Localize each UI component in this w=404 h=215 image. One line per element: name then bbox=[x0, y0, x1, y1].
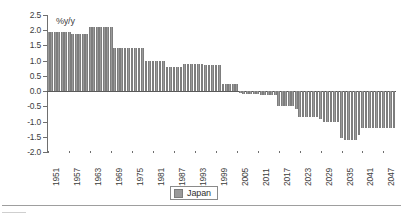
y-tick-mark bbox=[43, 76, 47, 77]
bar bbox=[267, 91, 270, 95]
bar bbox=[375, 91, 378, 128]
x-tick-label: 2041 bbox=[366, 168, 375, 186]
y-tick-mark bbox=[43, 15, 47, 16]
legend-label-japan: Japan bbox=[187, 188, 211, 198]
x-tick-mark bbox=[362, 151, 363, 153]
bar bbox=[305, 91, 308, 117]
bar bbox=[253, 91, 256, 94]
x-tick-label: 1975 bbox=[136, 168, 145, 186]
x-tick-mark bbox=[90, 151, 91, 153]
bar bbox=[354, 91, 357, 140]
bar bbox=[382, 91, 385, 128]
bar bbox=[54, 32, 57, 91]
bar bbox=[124, 48, 127, 91]
bar bbox=[228, 84, 231, 92]
x-tick-label: 1987 bbox=[178, 168, 187, 186]
bar bbox=[242, 91, 245, 93]
bar bbox=[145, 61, 148, 91]
x-tick-mark bbox=[216, 151, 217, 153]
bar bbox=[344, 91, 347, 140]
bar bbox=[68, 32, 71, 91]
bar bbox=[152, 61, 155, 91]
bar bbox=[120, 48, 123, 91]
bar bbox=[173, 67, 176, 91]
bar bbox=[379, 91, 382, 128]
bar bbox=[110, 27, 113, 91]
y-tick-label: 2.0 bbox=[30, 26, 41, 35]
bar bbox=[246, 91, 249, 94]
bar bbox=[113, 48, 116, 91]
bar bbox=[155, 61, 158, 91]
bar bbox=[169, 67, 172, 91]
y-tick-label: 1.0 bbox=[30, 57, 41, 66]
bar bbox=[295, 91, 298, 109]
bar bbox=[61, 32, 64, 91]
bar bbox=[57, 32, 60, 91]
x-tick-mark bbox=[258, 151, 259, 153]
x-tick-label: 2029 bbox=[325, 168, 334, 186]
bar bbox=[127, 48, 130, 91]
bar bbox=[78, 34, 81, 91]
x-axis-tick-labels: 1951195719631969197519811987199319992005… bbox=[0, 153, 404, 188]
bar bbox=[337, 91, 340, 121]
y-tick-mark bbox=[43, 30, 47, 31]
bar bbox=[309, 91, 312, 117]
bar bbox=[99, 27, 102, 91]
bar bbox=[323, 91, 326, 121]
bar bbox=[131, 48, 134, 91]
bar bbox=[263, 91, 266, 95]
x-tick-label: 2011 bbox=[262, 169, 271, 186]
bar bbox=[274, 91, 277, 95]
bar bbox=[256, 91, 259, 94]
bar bbox=[330, 91, 333, 121]
bar bbox=[368, 91, 371, 128]
x-tick-mark bbox=[383, 151, 384, 153]
x-tick-label: 2047 bbox=[387, 168, 396, 186]
y-tick-label: -1.0 bbox=[27, 118, 41, 127]
bar bbox=[141, 48, 144, 91]
bar bbox=[347, 91, 350, 140]
x-tick-mark bbox=[279, 151, 280, 153]
bar bbox=[333, 91, 336, 121]
bar bbox=[134, 48, 137, 91]
bar bbox=[89, 27, 92, 91]
x-tick-mark bbox=[48, 151, 49, 153]
x-tick-label: 2005 bbox=[241, 168, 250, 186]
x-tick-label: 1981 bbox=[157, 168, 166, 186]
bar bbox=[96, 27, 99, 91]
y-tick-label: -1.5 bbox=[27, 133, 41, 142]
chart-figure: 2.52.01.51.00.50.0-0.5-1.0-1.5-2.0 %y/y … bbox=[0, 0, 404, 215]
x-tick-mark bbox=[342, 151, 343, 153]
bar bbox=[351, 91, 354, 140]
bar bbox=[302, 91, 305, 117]
bar bbox=[71, 34, 74, 91]
bar bbox=[288, 91, 291, 106]
x-tick-label: 2023 bbox=[304, 168, 313, 186]
x-tick-mark bbox=[111, 151, 112, 153]
bar bbox=[162, 61, 165, 91]
bar bbox=[326, 91, 329, 121]
bar bbox=[389, 91, 392, 128]
x-tick-label: 1951 bbox=[52, 168, 61, 186]
y-tick-mark bbox=[43, 137, 47, 138]
chart-legend: Japan bbox=[170, 186, 218, 200]
y-tick-label: -0.5 bbox=[27, 102, 41, 111]
bar bbox=[222, 84, 225, 92]
bar bbox=[215, 65, 218, 91]
bar bbox=[64, 32, 67, 91]
x-tick-mark bbox=[69, 151, 70, 153]
bar bbox=[50, 32, 53, 91]
y-tick-mark bbox=[43, 106, 47, 107]
bar bbox=[225, 84, 228, 92]
bar bbox=[208, 65, 211, 91]
footer-divider bbox=[2, 205, 401, 206]
bar bbox=[82, 34, 85, 91]
bar bbox=[260, 91, 263, 95]
bar bbox=[386, 91, 389, 128]
bar bbox=[298, 91, 301, 117]
bar bbox=[211, 65, 214, 91]
y-tick-label: 0.5 bbox=[30, 72, 41, 81]
x-tick-label: 1999 bbox=[220, 168, 229, 186]
bar bbox=[358, 91, 361, 135]
bar bbox=[47, 32, 50, 91]
